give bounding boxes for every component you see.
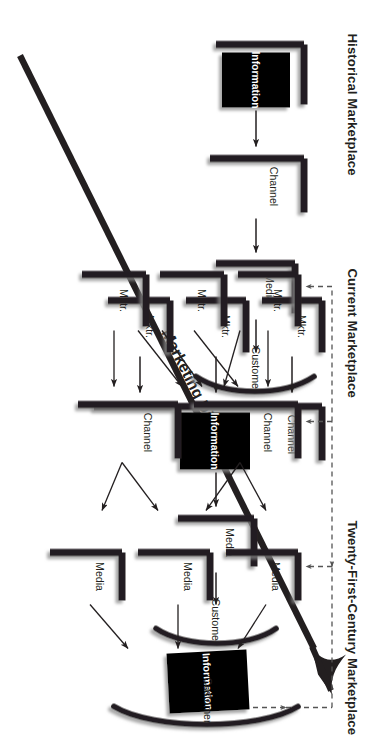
node-label-marketer: Mktr.: [196, 289, 208, 312]
node-label-media: Media: [94, 562, 106, 591]
information-badge-label: Information: [250, 51, 261, 108]
node-label-channel: Channel: [142, 412, 154, 451]
node-label-customer: Customer: [202, 677, 214, 723]
node-label-channel: Channel: [268, 166, 280, 205]
node-label-channel: Channel: [262, 412, 274, 451]
node-label-customer: Customer: [250, 346, 262, 392]
node-label-media: Media: [270, 562, 282, 591]
node-label-marketer: Mktr.: [118, 289, 130, 312]
section-title-historical: Historical Marketplace: [345, 33, 360, 175]
section-title-current: Current Marketplace: [345, 268, 360, 397]
information-badge-historical[interactable]: Information: [222, 51, 290, 108]
information-badge-current[interactable]: Information: [180, 412, 250, 469]
node-label-customer: Customer: [210, 598, 222, 644]
figure-canvas: Marketing Diagonal Historical Marketplac…: [0, 0, 390, 753]
information-badge-label: Information: [209, 412, 220, 469]
section-title-twenty-first-century: Twenty-First-Century Marketplace: [345, 520, 360, 735]
node-label-marketer: Mktr.: [272, 289, 284, 312]
marketing-diagonal-diagram: Marketing Diagonal Historical Marketplac…: [0, 0, 390, 753]
node-label-media: Media: [182, 562, 194, 591]
diagram-plate: Marketing Diagonal Historical Marketplac…: [0, 0, 390, 753]
